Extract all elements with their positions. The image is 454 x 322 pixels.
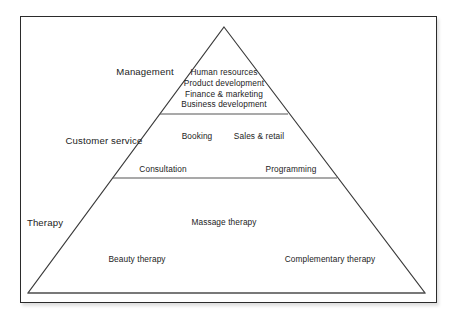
tier-item-customer-service-1: Sales & retail	[234, 132, 284, 140]
tier-item-management-2: Finance & marketing	[185, 89, 263, 97]
tier-label-customer-service: Customer service	[65, 136, 142, 146]
tier-item-customer-service-2: Consultation	[139, 165, 186, 173]
pyramid-shape-svg	[0, 0, 454, 322]
tier-item-therapy-0: Massage therapy	[191, 218, 256, 226]
tier-item-management-0: Human resources	[191, 68, 258, 76]
tier-label-management: Management	[116, 67, 174, 77]
tier-item-management-1: Product development	[184, 79, 264, 87]
tier-item-customer-service-0: Booking	[182, 132, 213, 140]
tier-item-therapy-2: Complementary therapy	[285, 255, 376, 263]
tier-item-management-3: Business development	[181, 100, 266, 108]
pyramid-diagram-figure: ManagementHuman resourcesProduct develop…	[0, 0, 454, 322]
tier-item-customer-service-3: Programming	[266, 165, 317, 173]
tier-label-therapy: Therapy	[27, 218, 63, 228]
tier-item-therapy-1: Beauty therapy	[108, 255, 165, 263]
